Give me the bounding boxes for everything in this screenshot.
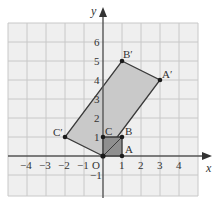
x-tick: −2 [58,159,70,171]
x-tick: −4 [20,159,32,171]
label-C: C [105,125,112,137]
point-O [100,153,105,158]
point-A [120,154,125,159]
y-tick: 1 [94,131,100,143]
x-tick: −1 [77,159,89,171]
coordinate-diagram: x y −4 −3 −2 −1 1 2 3 4 −1 1 2 3 4 5 6 O… [0,0,219,201]
x-tick: −3 [39,159,51,171]
y-axis-label: y [90,4,97,18]
label-B-prime: B′ [123,48,133,60]
origin-label: O [92,159,100,171]
y-tick: 3 [94,93,100,105]
label-C-prime: C′ [53,126,63,138]
label-B: B [125,125,132,137]
x-tick: 1 [119,159,125,171]
y-tick: 5 [94,55,100,67]
x-tick: 3 [157,159,163,171]
x-tick: 2 [138,159,144,171]
x-axis-arrow-icon [202,152,212,160]
label-A: A [125,143,133,155]
point-B [120,135,125,140]
x-axis-label: x [205,161,212,175]
y-tick: 4 [94,74,100,86]
y-tick: 2 [94,112,100,124]
y-tick: 6 [94,36,100,48]
y-axis-arrow-icon [99,7,107,17]
x-tick: 4 [176,159,182,171]
label-A-prime: A′ [162,68,172,80]
point-C-prime [63,135,68,140]
